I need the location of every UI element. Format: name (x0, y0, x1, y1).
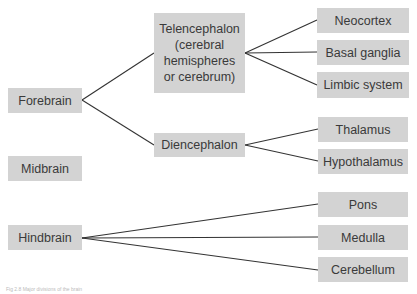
node-thalamus: Thalamus (318, 117, 408, 142)
node-hypothalamus: Hypothalamus (318, 149, 408, 174)
figure-caption: Fig 2.8 Major divisions of the brain (6, 286, 82, 292)
node-diencephalon: Diencephalon (154, 133, 245, 157)
node-cerebellum: Cerebellum (318, 257, 408, 282)
node-telencephalon: Telencephalon (cerebral hemispheres or c… (154, 13, 245, 93)
node-basal-ganglia: Basal ganglia (317, 40, 409, 65)
node-limbic-system: Limbic system (317, 72, 409, 98)
node-forebrain: Forebrain (8, 88, 82, 113)
node-neocortex: Neocortex (317, 8, 409, 33)
node-medulla: Medulla (318, 225, 408, 250)
node-midbrain: Midbrain (8, 156, 82, 181)
node-pons: Pons (318, 192, 408, 217)
node-hindbrain: Hindbrain (8, 225, 82, 250)
